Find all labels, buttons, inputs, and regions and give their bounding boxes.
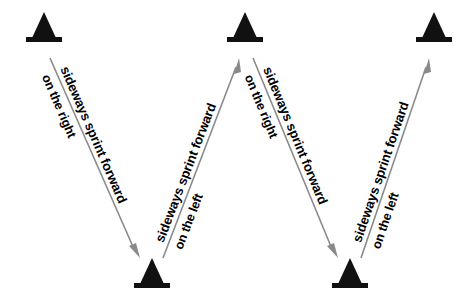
route-line-1 (50, 58, 134, 249)
drill-diagram: sideways sprint forward on the right sid… (0, 0, 472, 304)
route-arrow-4 (361, 58, 431, 258)
cone-top-2 (227, 12, 263, 42)
route-label-group-1: sideways sprint forward on the right (39, 64, 130, 213)
route-line-2 (163, 67, 236, 258)
cone-top-1 (26, 12, 62, 42)
route-arrowhead-4 (424, 58, 431, 74)
route-line-3 (253, 58, 332, 249)
route-arrow-2 (163, 58, 241, 258)
route-line-4 (361, 67, 426, 258)
cone-bottom-1 (134, 258, 170, 288)
route-arrow-1 (50, 58, 140, 258)
drill-canvas: sideways sprint forward on the right sid… (0, 0, 472, 304)
route-arrowhead-3 (327, 243, 338, 258)
cone-top-3 (416, 12, 452, 42)
route-arrowhead-1 (129, 243, 140, 258)
route-arrowhead-2 (234, 58, 241, 74)
route-arrow-3 (253, 58, 338, 258)
route-label-group-4: sideways sprint forward on the left (349, 100, 430, 251)
cone-bottom-2 (332, 258, 368, 288)
